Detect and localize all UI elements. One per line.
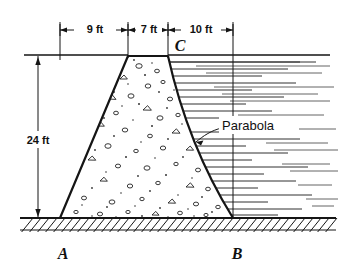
point-label-a: A (57, 245, 69, 262)
point-label-b: B (231, 245, 243, 262)
dimension-label-24ft: 24 ft (27, 134, 50, 146)
ground-hatching (20, 218, 337, 234)
point-label-c: C (175, 37, 186, 54)
dam-cross-section-figure: 9 ft 7 ft 10 ft 24 ft A B C Parabola (0, 0, 340, 278)
dimension-label-7ft: 7 ft (141, 23, 158, 35)
dimension-label-10ft: 10 ft (190, 23, 213, 35)
dimension-label-9ft: 9 ft (87, 23, 104, 35)
figure-canvas: 9 ft 7 ft 10 ft 24 ft A B C Parabola (0, 0, 340, 278)
parabola-label: Parabola (222, 118, 275, 133)
dam-body-fill (60, 56, 233, 218)
parabola-leader-line (196, 128, 222, 142)
